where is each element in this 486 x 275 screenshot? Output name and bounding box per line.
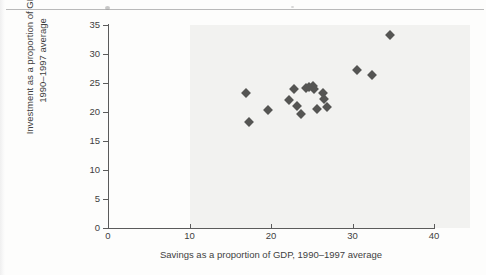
plot-area (108, 25, 434, 228)
y-tick-mark (103, 25, 108, 26)
x-tick-label: 0 (93, 231, 123, 241)
x-tick-label: 30 (338, 231, 368, 241)
y-tick-mark (103, 54, 108, 55)
y-tick-mark (103, 199, 108, 200)
y-axis-title: Investment as a proportion of GDP,1990–1… (24, 0, 49, 149)
y-tick-label: 15 (70, 136, 100, 146)
x-tick-mark (434, 224, 435, 229)
x-tick-mark (271, 224, 272, 229)
y-tick-mark (103, 83, 108, 84)
x-tick-label: 10 (175, 231, 205, 241)
y-tick-label: 35 (70, 20, 100, 30)
y-tick-label: 25 (70, 78, 100, 88)
y-tick-mark (103, 141, 108, 142)
y-tick-label: 20 (70, 107, 100, 117)
x-tick-label: 40 (419, 231, 449, 241)
y-axis-title-line-2: 1990–1997 average (36, 0, 49, 149)
x-tick-mark (108, 224, 109, 229)
y-axis-title-line-1: Investment as a proportion of GDP, (24, 0, 37, 149)
y-tick-mark (103, 170, 108, 171)
x-tick-mark (190, 224, 191, 229)
y-tick-mark (103, 112, 108, 113)
shaded-plot-region (190, 25, 471, 228)
page-canvas: 05101520253035 010203040 Investment as a… (0, 0, 486, 275)
y-tick-label: 30 (70, 49, 100, 59)
x-axis-title: Savings as a proportion of GDP, 1990–199… (108, 249, 434, 260)
scatter-chart: 05101520253035 010203040 Investment as a… (0, 0, 486, 275)
y-tick-label: 10 (70, 165, 100, 175)
y-axis-line (108, 24, 109, 229)
y-tick-label: 5 (70, 194, 100, 204)
x-tick-mark (353, 224, 354, 229)
x-tick-label: 20 (256, 231, 286, 241)
